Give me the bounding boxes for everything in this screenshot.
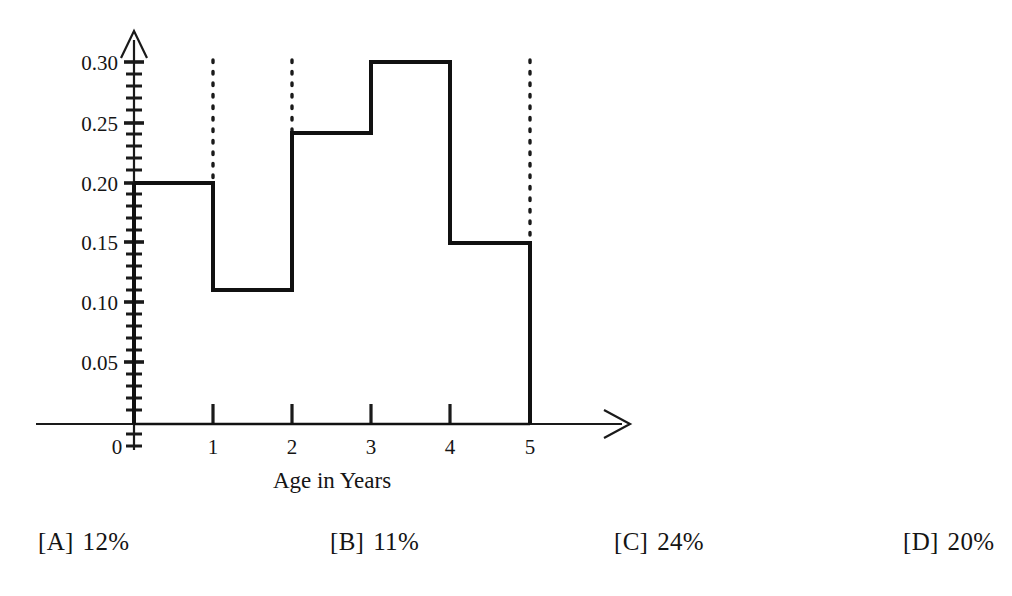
x-tick-label: 2 <box>287 435 298 459</box>
answer-option-b-tag: [B] <box>330 528 364 555</box>
x-tick-label: 1 <box>208 435 219 459</box>
histogram-bars <box>134 62 530 424</box>
y-tick-label: 0.15 <box>81 231 118 255</box>
y-tick-label: 0.10 <box>81 291 118 315</box>
answer-option-a-tag: [A] <box>38 528 74 555</box>
answer-option-d[interactable]: [D]20% <box>903 528 994 556</box>
answer-option-d-value: 20% <box>948 528 995 555</box>
y-tick-label: 0.05 <box>81 351 118 375</box>
answer-option-b[interactable]: [B]11% <box>330 528 419 556</box>
x-tick-label: 3 <box>366 435 377 459</box>
answer-option-a-value: 12% <box>83 528 130 555</box>
x-tick-label: 4 <box>445 435 456 459</box>
answer-option-d-tag: [D] <box>903 528 939 555</box>
histogram-step-outline <box>134 62 530 424</box>
x-tick-label: 5 <box>525 435 536 459</box>
y-tick-label: 0.25 <box>81 112 118 136</box>
y-tick-label: 0.30 <box>81 51 118 75</box>
histogram-plot: 0.05 0.10 0.15 0.20 0.25 0.30 0 1 2 3 4 … <box>0 0 1012 515</box>
answer-option-b-value: 11% <box>373 528 419 555</box>
x-axis-tick-labels: 0 1 2 3 4 5 <box>112 435 536 459</box>
x-tick-label: 0 <box>112 435 123 459</box>
x-major-ticks <box>213 404 530 424</box>
answer-option-a[interactable]: [A]12% <box>38 528 129 556</box>
x-axis-title: Age in Years <box>273 468 391 493</box>
answer-option-c-value: 24% <box>657 528 704 555</box>
y-axis-tick-labels: 0.05 0.10 0.15 0.20 0.25 0.30 <box>81 51 118 375</box>
y-tick-label: 0.20 <box>81 172 118 196</box>
answer-option-c[interactable]: [C]24% <box>614 528 704 556</box>
answer-options-row: [A]12% [B]11% [C]24% [D]20% <box>0 528 1012 586</box>
histogram-figure: 0.05 0.10 0.15 0.20 0.25 0.30 0 1 2 3 4 … <box>0 0 1012 515</box>
answer-option-c-tag: [C] <box>614 528 648 555</box>
